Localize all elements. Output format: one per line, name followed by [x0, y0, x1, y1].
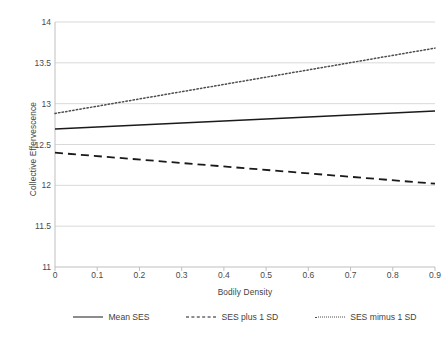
- y-axis-tick-label: 13.5: [0, 58, 51, 68]
- x-axis-tick-label: 0.7: [336, 270, 366, 280]
- x-axis-tick-label: 0.3: [167, 270, 197, 280]
- x-axis-tick-label: 0.1: [82, 270, 112, 280]
- x-axis-tick-label: 0.6: [293, 270, 323, 280]
- x-axis-tick-label: 0.9: [420, 270, 445, 280]
- legend-item-1[interactable]: SES plus 1 SD: [186, 312, 278, 322]
- legend-item-0[interactable]: Mean SES: [73, 312, 149, 322]
- legend-swatch-solid-icon: [73, 313, 103, 321]
- legend-label: SES plus 1 SD: [221, 312, 278, 322]
- legend-label: Mean SES: [108, 312, 149, 322]
- x-axis-tick-label: 0.4: [209, 270, 239, 280]
- x-axis-tick-label: 0.2: [124, 270, 154, 280]
- y-axis-tick-label: 14: [0, 17, 51, 27]
- y-axis-tick-label: 13: [0, 99, 51, 109]
- x-axis-tick-label: 0.5: [251, 270, 281, 280]
- x-axis-tick-label: 0: [40, 270, 70, 280]
- x-axis-tick-label: 0.8: [378, 270, 408, 280]
- y-axis-tick-labels: 1111.51212.51313.514: [0, 0, 445, 347]
- chart-root: Collective Effervescence Bodily Density …: [0, 0, 445, 347]
- y-axis-tick-label: 12.5: [0, 140, 51, 150]
- legend-swatch-dotted-icon: [315, 313, 345, 321]
- legend-label: SES mimus 1 SD: [350, 312, 416, 322]
- chart-legend: Mean SESSES plus 1 SDSES mimus 1 SD: [55, 312, 435, 322]
- legend-swatch-dashed-icon: [186, 313, 216, 321]
- y-axis-tick-label: 11.5: [0, 221, 51, 231]
- legend-item-2[interactable]: SES mimus 1 SD: [315, 312, 416, 322]
- y-axis-tick-label: 12: [0, 180, 51, 190]
